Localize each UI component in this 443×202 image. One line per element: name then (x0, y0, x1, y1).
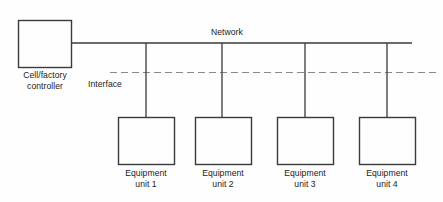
equipment-unit-2-label: Equipment unit 2 (183, 168, 263, 189)
equipment-unit-3-label: Equipment unit 3 (265, 168, 345, 189)
equipment-unit-3-box (278, 118, 334, 165)
equipment-unit-2-box (196, 118, 252, 165)
interface-label: Interface (88, 79, 122, 90)
controller-label: Cell/factory controller (5, 70, 85, 91)
equipment-unit-4-label: Equipment unit 4 (347, 168, 427, 189)
network-interface-diagram: Cell/factory controller Network Interfac… (0, 0, 443, 202)
network-label: Network (211, 27, 243, 38)
equipment-unit-1-box (119, 118, 175, 165)
equipment-unit-4-box (360, 118, 416, 165)
controller-box (19, 21, 72, 68)
equipment-unit-1-label: Equipment unit 1 (106, 168, 186, 189)
